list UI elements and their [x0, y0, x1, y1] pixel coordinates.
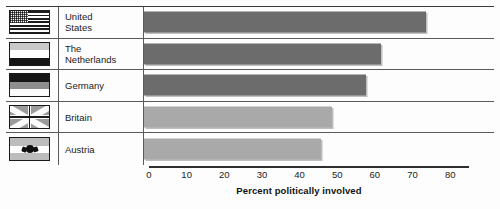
us-flag-icon [9, 10, 50, 34]
row-label: Britain [58, 102, 143, 133]
row-label-line1: Germany [65, 80, 143, 91]
austria-flag-icon [9, 137, 50, 161]
row-label-line2: Netherlands [65, 54, 143, 65]
bar [144, 43, 381, 64]
table-row: Britain [6, 102, 494, 134]
x-tick-label: 60 [370, 169, 381, 180]
bar-track [143, 102, 494, 133]
row-label-line1: The [65, 43, 143, 54]
row-label: Germany [58, 70, 143, 101]
horizontal-bar-chart: United States The Netherlands [0, 0, 500, 209]
x-axis-tick-labels: 01020304050607080 [149, 169, 489, 183]
flag-cell [6, 73, 58, 97]
bar-track [143, 39, 494, 70]
germany-flag-icon [9, 73, 50, 97]
britain-flag-icon [9, 105, 50, 129]
bar-track [143, 7, 494, 38]
flag-cell [6, 137, 58, 161]
table-row: United States [6, 7, 494, 39]
row-label-line1: Austria [65, 144, 143, 155]
bar [144, 107, 332, 128]
row-label-line1: United [65, 11, 143, 22]
bar [144, 12, 426, 33]
row-label: The Netherlands [58, 39, 143, 70]
x-tick-label: 70 [407, 169, 418, 180]
x-axis-line [149, 166, 469, 168]
flag-cell [6, 105, 58, 129]
bar [144, 139, 321, 160]
table-row: Germany [6, 70, 494, 102]
x-tick-label: 30 [257, 169, 268, 180]
x-tick-label: 10 [181, 169, 192, 180]
table-row: Austria [6, 133, 494, 165]
bar-track [143, 70, 494, 101]
eagle-emblem-icon [26, 145, 34, 153]
row-label-line1: Britain [65, 112, 143, 123]
x-tick-label: 40 [294, 169, 305, 180]
row-label-line2: States [65, 22, 143, 33]
table-row: The Netherlands [6, 39, 494, 71]
chart-rows-table: United States The Netherlands [6, 6, 494, 166]
row-label: United States [58, 7, 143, 38]
flag-cell [6, 42, 58, 66]
x-tick-label: 50 [332, 169, 343, 180]
x-tick-label: 0 [146, 169, 151, 180]
bar [144, 75, 366, 96]
row-label: Austria [58, 133, 143, 165]
netherlands-flag-icon [9, 42, 50, 66]
x-tick-label: 80 [445, 169, 456, 180]
x-tick-label: 20 [219, 169, 230, 180]
bar-track [143, 133, 494, 165]
flag-cell [6, 10, 58, 34]
x-axis-title: Percent politically involved [149, 185, 449, 196]
